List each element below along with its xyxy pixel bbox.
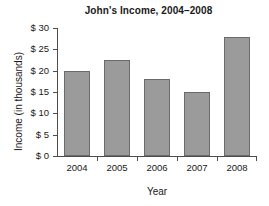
chart-title: John's Income, 2004–2008 — [46, 5, 251, 16]
y-tick-label: $ 0 — [36, 150, 49, 161]
y-tick-label: $ 15 — [31, 86, 50, 97]
x-tick-label: 2008 — [218, 162, 256, 173]
x-axis-line — [57, 156, 257, 157]
y-axis-title: Income (in thousands) — [13, 32, 24, 172]
y-tick-label: $ 5 — [36, 129, 49, 140]
bar — [64, 71, 90, 156]
x-tick — [217, 157, 218, 161]
x-tick-label: 2005 — [98, 162, 136, 173]
y-tick: $ 25 — [53, 49, 57, 50]
bar — [144, 79, 170, 156]
bar-chart-figure: John's Income, 2004–2008 Income (in thou… — [0, 0, 269, 206]
y-tick-label: $ 10 — [31, 107, 50, 118]
x-tick — [177, 157, 178, 161]
y-axis-line — [57, 28, 58, 157]
x-tick-label: 2006 — [138, 162, 176, 173]
plot-area: $ 0$ 5$ 10$ 15$ 20$ 25$ 30 2004200520062… — [57, 28, 257, 157]
bar — [104, 60, 130, 156]
y-tick: $ 10 — [53, 113, 57, 114]
x-tick-label: 2004 — [58, 162, 96, 173]
x-tick-label: 2007 — [178, 162, 216, 173]
x-tick — [256, 157, 257, 161]
x-tick — [97, 157, 98, 161]
y-tick-label: $ 30 — [31, 22, 50, 33]
y-tick: $ 30 — [53, 28, 57, 29]
y-tick: $ 15 — [53, 92, 57, 93]
y-tick: $ 0 — [53, 156, 57, 157]
y-tick-label: $ 20 — [31, 65, 50, 76]
x-tick — [137, 157, 138, 161]
bar — [184, 92, 210, 156]
y-tick-label: $ 25 — [31, 43, 50, 54]
x-axis-title: Year — [57, 186, 257, 197]
y-tick: $ 20 — [53, 71, 57, 72]
bar — [224, 37, 250, 156]
y-tick: $ 5 — [53, 135, 57, 136]
